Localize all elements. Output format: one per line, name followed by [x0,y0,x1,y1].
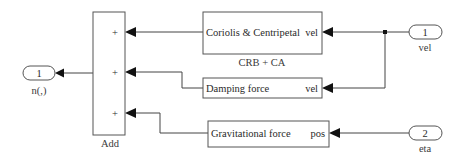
inport-1-label: vel [419,42,432,53]
wire-inport1-to-damping[interactable] [331,32,385,88]
add-input-sign-3: + [112,108,118,119]
add-input-sign-1: + [112,27,118,38]
diagram-canvas: + + + Add Coriolis & Centripetal vel CRB… [0,0,467,161]
gravity-port-pos: pos [310,128,325,139]
coriolis-centripetal-block[interactable]: Coriolis & Centripetal vel [203,12,322,54]
add-input-sign-2: + [112,67,118,78]
inport-1-number: 1 [422,27,427,38]
inport-2-label: eta [419,143,432,154]
coriolis-block-title: Coriolis & Centripetal [206,27,300,38]
inport-2[interactable]: 2 [409,126,442,140]
arrow-head-icon [125,67,136,77]
coriolis-block-label: CRB + CA [239,57,286,68]
add-block-label: Add [101,138,120,149]
inport-1[interactable]: 1 [409,25,442,39]
inport-2-number: 2 [422,128,427,139]
arrow-head-icon [329,128,340,138]
damping-force-block[interactable]: Damping force vel [203,78,322,98]
arrow-head-icon [322,27,333,37]
coriolis-port-vel: vel [305,27,318,38]
gravity-block-title: Gravitational force [211,128,291,139]
wire-damping-to-add[interactable] [134,72,203,88]
damping-port-vel: vel [305,83,318,94]
outport-1-number: 1 [36,68,41,79]
gravitational-force-block[interactable]: Gravitational force pos [208,121,329,147]
branch-junction-dot [383,30,387,34]
wire-gravity-to-add[interactable] [134,113,208,133]
add-block[interactable]: + + + [93,12,125,135]
outport-1-label: n(,) [32,85,47,97]
arrow-head-icon [322,83,333,93]
outport-1[interactable]: 1 [23,66,55,80]
arrow-head-icon [125,108,136,118]
arrow-head-icon [125,27,136,37]
arrow-head-icon [55,69,64,78]
damping-block-title: Damping force [206,83,270,94]
